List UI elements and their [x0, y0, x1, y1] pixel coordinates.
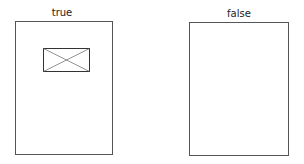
panel-true — [15, 21, 113, 155]
panel-false — [189, 22, 289, 156]
panel-label-false: false — [209, 8, 269, 20]
image-placeholder-icon — [43, 48, 90, 72]
panel-label-true: true — [32, 7, 92, 19]
